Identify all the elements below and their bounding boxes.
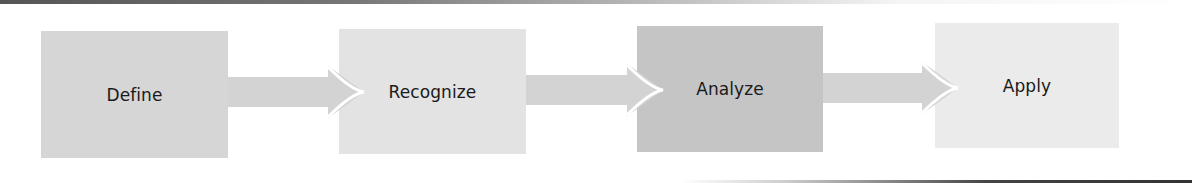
top-rule <box>0 0 1192 4</box>
arrow-head-notch <box>226 64 366 120</box>
step-label: Recognize <box>389 82 477 102</box>
bottom-rule <box>680 180 1192 183</box>
step-define: Define <box>41 31 228 158</box>
step-label: Define <box>106 85 162 105</box>
arrow-head-notch <box>820 60 960 116</box>
step-apply: Apply <box>935 23 1119 148</box>
arrow-head-notch <box>525 62 665 118</box>
step-recognize: Recognize <box>339 29 526 154</box>
step-label: Analyze <box>696 79 764 99</box>
step-label: Apply <box>1003 76 1052 96</box>
